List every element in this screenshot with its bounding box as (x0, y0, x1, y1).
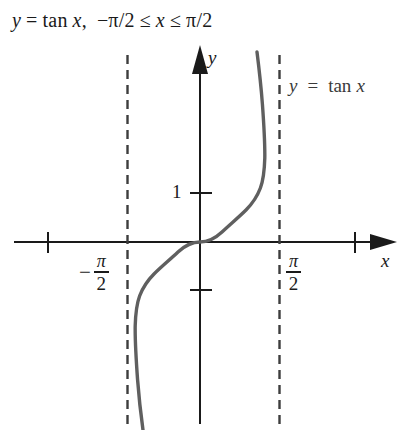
fraction-denominator-two: 2 (289, 273, 299, 293)
y-axis-label: y (208, 48, 216, 67)
fraction-numerator-pi: π (95, 252, 108, 271)
annotation-lhs-variable: y (289, 75, 297, 96)
x-axis-label-negative-pi-over-2: − π 2 (79, 252, 109, 293)
fraction-pi-over-two: π 2 (94, 252, 109, 293)
curve-annotation-label: y=tanx (289, 76, 365, 95)
y-axis-arrowhead (192, 45, 208, 74)
fraction-denominator-two: 2 (97, 273, 107, 293)
fraction-numerator-pi: π (287, 252, 300, 271)
fraction-pi-over-two: π 2 (286, 252, 301, 293)
x-axis-arrowhead (370, 234, 397, 250)
annotation-function-name: tan (328, 75, 351, 96)
negative-sign: − (79, 260, 94, 285)
annotation-equals-sign: = (307, 75, 318, 96)
plot-canvas (0, 0, 406, 430)
annotation-function-argument: x (356, 75, 364, 96)
tangent-function-figure: y=tanx,−π/2≤x≤π/2 y x 1 y=tanx − (0, 0, 406, 430)
x-axis-label-positive-pi-over-2: π 2 (286, 252, 301, 293)
x-axis-label: x (381, 251, 389, 270)
y-axis-tick-label-one: 1 (172, 182, 182, 201)
